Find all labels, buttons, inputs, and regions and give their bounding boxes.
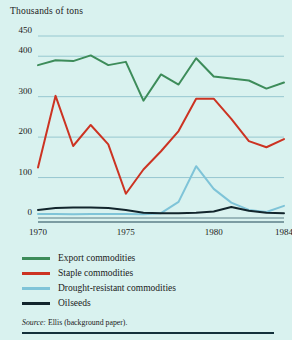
y-tick-label: 300	[19, 86, 33, 96]
line-chart: 01002003004004501970197519801984	[0, 18, 292, 240]
legend-item-staple: Staple commodities	[22, 267, 282, 280]
legend-item-drought-resistant: Drought-resistant commodities	[22, 282, 282, 295]
legend-label-export: Export commodities	[58, 253, 135, 264]
plot-area: 01002003004004501970197519801984	[0, 18, 292, 240]
source-prefix: Source:	[22, 318, 46, 327]
series-line	[38, 55, 284, 100]
x-tick-label: 1970	[29, 227, 48, 237]
source-note: Source: Ellis (background paper).	[22, 318, 127, 327]
y-tick-label: 450	[19, 25, 33, 35]
y-tick-label: 0	[28, 207, 33, 217]
legend-swatch-export	[22, 257, 50, 260]
legend-label-drought-resistant: Drought-resistant commodities	[58, 283, 176, 294]
legend-swatch-oilseeds	[22, 302, 50, 305]
x-tick-label: 1980	[205, 227, 224, 237]
legend-label-oilseeds: Oilseeds	[58, 298, 91, 309]
source-text: Ellis (background paper).	[48, 318, 127, 327]
legend-swatch-drought-resistant	[22, 287, 50, 290]
legend: Export commodities Staple commodities Dr…	[22, 252, 282, 312]
legend-item-oilseeds: Oilseeds	[22, 297, 282, 310]
series-line	[38, 207, 284, 213]
y-tick-label: 200	[19, 126, 33, 136]
figure: Thousands of tons 0100200300400450197019…	[0, 0, 292, 340]
legend-swatch-staple	[22, 272, 50, 275]
bottom-rule	[22, 332, 274, 334]
legend-item-export: Export commodities	[22, 252, 282, 265]
y-axis-title: Thousands of tons	[10, 6, 83, 16]
series-line	[38, 96, 284, 194]
x-tick-label: 1975	[117, 227, 136, 237]
legend-label-staple: Staple commodities	[58, 268, 133, 279]
y-tick-label: 400	[19, 45, 33, 55]
y-tick-label: 100	[19, 167, 33, 177]
x-tick-label: 1984	[275, 227, 292, 237]
